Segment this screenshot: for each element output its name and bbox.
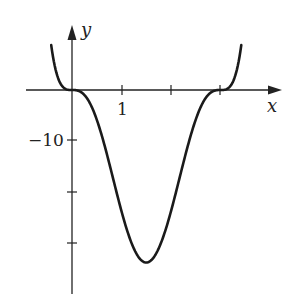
- x-axis-label: x: [267, 95, 277, 116]
- chart: 1 −10 y x: [0, 0, 286, 302]
- y-axis-arrow-icon: [68, 25, 77, 40]
- x-axis-arrow-icon: [268, 86, 282, 95]
- function-curve: [51, 45, 241, 262]
- x-tick-label-1: 1: [117, 99, 128, 119]
- y-tick-label-neg10: −10: [28, 130, 64, 150]
- y-axis-label: y: [80, 19, 92, 40]
